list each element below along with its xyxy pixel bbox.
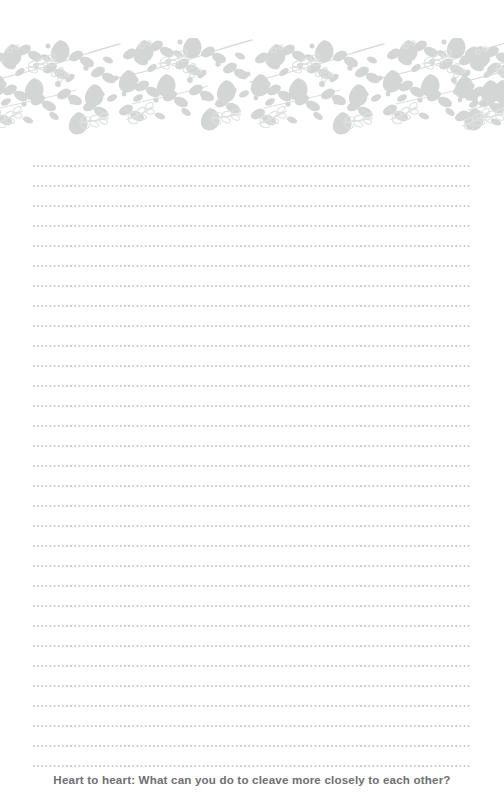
- rule-line: [33, 445, 472, 447]
- rule-line: [33, 765, 472, 767]
- rule-line: [33, 465, 472, 467]
- rule-line: [33, 745, 472, 747]
- rule-line: [33, 725, 472, 727]
- rule-line: [33, 305, 472, 307]
- rule-line: [33, 385, 472, 387]
- rule-line: [33, 225, 472, 227]
- floral-border-band: [0, 38, 504, 136]
- rule-line: [33, 705, 472, 707]
- rule-line: [33, 245, 472, 247]
- rule-line: [33, 505, 472, 507]
- rule-line: [33, 545, 472, 547]
- rule-line: [33, 285, 472, 287]
- rule-line: [33, 685, 472, 687]
- footer-prompt-text: Heart to heart: What can you do to cleav…: [0, 773, 504, 786]
- rule-line: [33, 525, 472, 527]
- rule-line: [33, 205, 472, 207]
- rule-line: [33, 365, 472, 367]
- dotted-writing-lines: [33, 164, 472, 768]
- rule-line: [33, 565, 472, 567]
- rule-line: [33, 325, 472, 327]
- rule-line: [33, 425, 472, 427]
- rule-line: [33, 645, 472, 647]
- rule-line: [33, 185, 472, 187]
- rule-line: [33, 665, 472, 667]
- rule-line: [33, 405, 472, 407]
- rule-line: [33, 625, 472, 627]
- rule-line: [33, 485, 472, 487]
- rule-line: [33, 345, 472, 347]
- rule-line: [33, 165, 472, 167]
- rule-line: [33, 605, 472, 607]
- rule-line: [33, 265, 472, 267]
- rule-line: [33, 585, 472, 587]
- journal-page: Heart to heart: What can you do to cleav…: [0, 0, 504, 811]
